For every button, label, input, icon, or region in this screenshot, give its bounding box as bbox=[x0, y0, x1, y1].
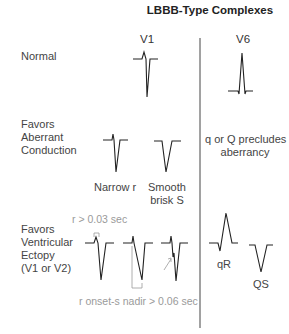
waveform-wide-r bbox=[85, 237, 114, 280]
ecg-waveforms bbox=[0, 0, 289, 334]
waveform-qs bbox=[249, 245, 273, 272]
waveform-normal-v6 bbox=[228, 53, 253, 94]
waveform-notched-downstroke bbox=[161, 236, 188, 281]
waveform-smooth-brisk-s bbox=[154, 141, 181, 172]
waveform-narrow-r bbox=[103, 134, 128, 172]
waveform-normal-v1 bbox=[133, 52, 158, 97]
waveform-qr bbox=[209, 213, 238, 251]
waveform-slurred-downstroke bbox=[123, 236, 153, 280]
